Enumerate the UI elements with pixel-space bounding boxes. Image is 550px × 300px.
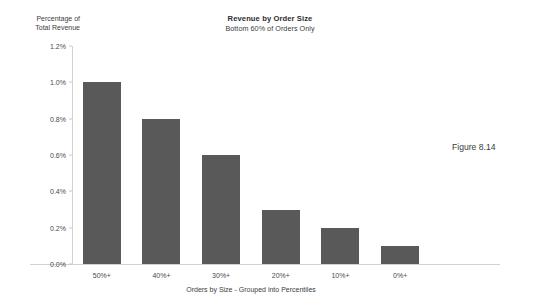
figure-container: Revenue by Order Size Bottom 60% of Orde… — [0, 0, 550, 300]
x-axis-tick-label: 30%+ — [191, 272, 251, 279]
y-axis-title: Percentage of Total Revenue — [12, 14, 80, 33]
chart-title-block: Revenue by Order Size Bottom 60% of Orde… — [160, 14, 380, 33]
figure-caption: Figure 8.14 — [452, 142, 495, 152]
x-axis-tick-label: 10%+ — [311, 272, 371, 279]
bar[interactable] — [321, 228, 359, 264]
bar[interactable] — [262, 210, 300, 265]
x-axis-tick-label: 20%+ — [251, 272, 311, 279]
x-axis-tick-label: 50%+ — [72, 272, 132, 279]
bar-slot — [251, 46, 311, 264]
bar-slot — [311, 46, 371, 264]
bar-slot — [370, 46, 430, 264]
x-axis-title: Orders by Size - Grouped into Percentile… — [72, 286, 430, 293]
chart-title: Revenue by Order Size — [160, 14, 380, 23]
x-axis-tick-label: 40%+ — [132, 272, 192, 279]
x-axis-line — [30, 264, 500, 265]
y-axis-title-line-2: Total Revenue — [12, 23, 80, 32]
bar-slot — [132, 46, 192, 264]
bar[interactable] — [83, 82, 121, 264]
chart-subtitle: Bottom 60% of Orders Only — [160, 24, 380, 33]
bar-slot — [191, 46, 251, 264]
bar[interactable] — [381, 246, 419, 264]
bar-slot — [72, 46, 132, 264]
y-axis-title-line-1: Percentage of — [12, 14, 80, 23]
x-axis-tick-label: 0%+ — [370, 272, 430, 279]
plot-area — [72, 46, 430, 264]
bar[interactable] — [202, 155, 240, 264]
bar[interactable] — [142, 119, 180, 264]
